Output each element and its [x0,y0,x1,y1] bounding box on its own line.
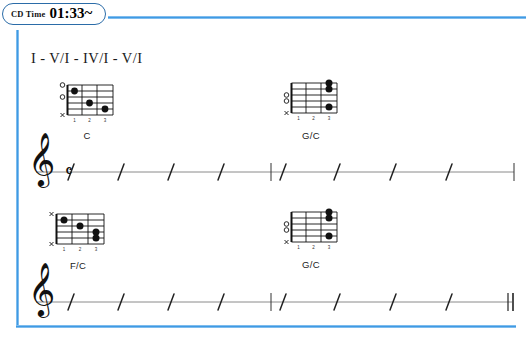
cd-time-label: CD Time [11,9,45,19]
chord-grid-svg: 1 2 3 [57,82,117,127]
chord-name-label: C [57,130,117,141]
frame-left-rule [16,30,19,328]
chord-grid: 1 2 3 [57,82,117,127]
svg-text:1: 1 [73,118,76,123]
svg-text:1: 1 [297,245,300,250]
frame-bottom-rule [16,325,516,328]
common-time-icon: 𝄴 [65,161,73,181]
staff-2: 𝄞 [28,280,520,325]
chord-diagram-c: 1 2 3 C [57,82,117,141]
svg-text:2: 2 [312,245,315,250]
svg-text:2: 2 [88,118,91,123]
chord-name-label: G/C [281,259,341,270]
chord-diagram-f-over-c: 1 2 3 F/C [46,210,110,271]
lesson-page: CD Time 01:33~ I - V/I - IV/I - V/I [0,0,528,346]
treble-clef-icon: 𝄞 [28,266,55,312]
svg-text:2: 2 [312,116,315,121]
cd-time-value: 01:33~ [49,6,92,21]
svg-text:3: 3 [328,245,331,250]
svg-text:1: 1 [297,116,300,121]
chord-grid: 1 2 3 [46,210,110,257]
staff-1: 𝄞 𝄴 [28,150,520,195]
chord-grid-svg: 1 2 3 [46,210,110,257]
chord-name-label: G/C [281,130,341,141]
chord-grid: 1 2 3 [281,207,341,256]
svg-text:2: 2 [79,247,82,252]
svg-text:3: 3 [104,118,107,123]
staff-2-svg [28,280,520,325]
chord-diagram-g-over-c-1: 1 2 3 G/C [281,78,341,141]
treble-clef-icon: 𝄞 [28,136,55,182]
svg-text:3: 3 [328,116,331,121]
cd-time-badge: CD Time 01:33~ [2,3,106,25]
chord-progression-caption: I - V/I - IV/I - V/I [31,50,142,67]
chord-grid: 1 2 3 [281,78,341,127]
frame-top-rule [108,16,526,19]
chord-grid-svg: 1 2 3 [281,78,341,127]
chord-grid-svg: 1 2 3 [281,207,341,256]
chord-name-label: F/C [46,260,110,271]
svg-text:1: 1 [63,247,66,252]
svg-text:3: 3 [95,247,98,252]
chord-diagram-g-over-c-2: 1 2 3 G/C [281,207,341,270]
staff-1-svg [28,150,520,195]
